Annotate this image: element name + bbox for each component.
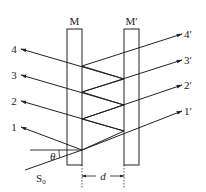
plate-m-prime-label: M′: [125, 15, 137, 27]
transmitted-beam-4: [82, 34, 182, 66]
reflected-beam-2: [21, 101, 124, 131]
plate-m: [67, 29, 82, 165]
angle-theta-label: θ: [50, 150, 56, 162]
reflected-beam-3: [21, 75, 124, 105]
transmitted-label-1: 1′: [184, 105, 192, 117]
reflected-label-1: 1: [11, 121, 17, 133]
reflected-label-2: 2: [11, 95, 17, 107]
plate-m-prime: [124, 29, 139, 165]
reflected-label-3: 3: [11, 69, 17, 81]
source-label: S0: [36, 172, 46, 186]
transmitted-label-4: 4′: [184, 28, 192, 40]
reflected-beam-1: [21, 127, 82, 150]
fabry-perot-diagram: M M′ 1 2 3 4 1′ 2′ 3′ 4′ θ S0 d: [0, 0, 206, 192]
angle-arc: [59, 150, 60, 158]
transmitted-label-2: 2′: [184, 79, 192, 91]
transmitted-label-3: 3′: [184, 54, 192, 66]
transmitted-beam-3: [82, 60, 182, 92]
plate-m-label: M: [70, 15, 80, 27]
reflected-label-4: 4: [11, 43, 17, 55]
gap-d-label: d: [100, 170, 106, 182]
transmitted-beam-1: [82, 111, 182, 150]
internal-reflections: [82, 66, 124, 150]
reflected-beam-4: [21, 49, 124, 79]
transmitted-beam-2: [82, 85, 182, 119]
